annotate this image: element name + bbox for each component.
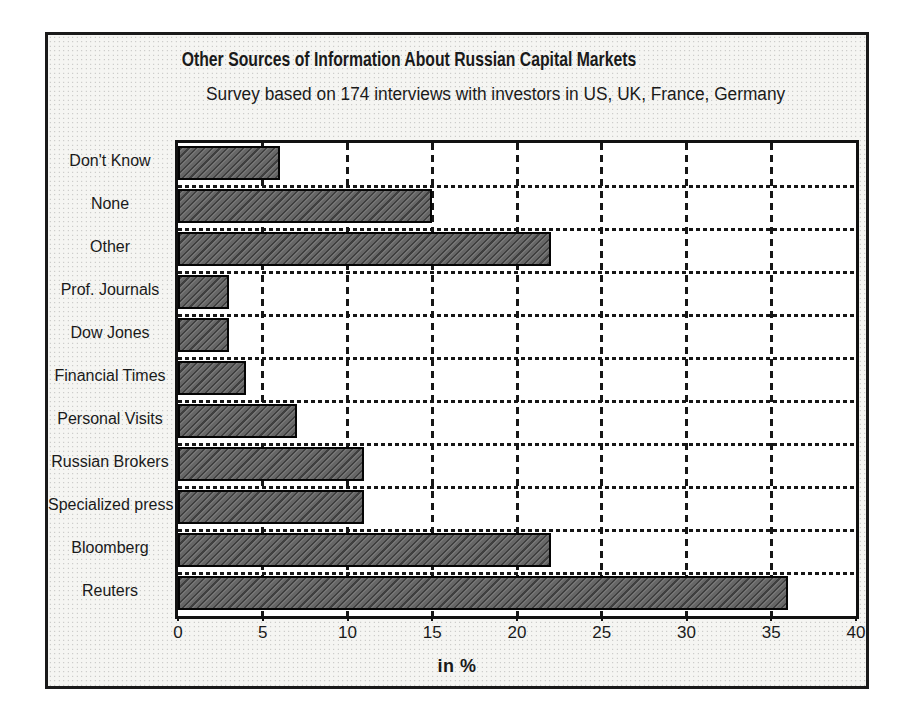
category-label: None bbox=[48, 195, 172, 213]
x-tick-label: 30 bbox=[665, 623, 709, 643]
plot-area bbox=[175, 140, 859, 619]
chart-title: Other Sources of Information About Russi… bbox=[0, 47, 821, 71]
category-axis: Don't KnowNoneOtherProf. JournalsDow Jon… bbox=[48, 140, 172, 613]
row-separator bbox=[178, 314, 856, 317]
x-tick-label: 0 bbox=[156, 623, 200, 643]
chart-subtitle: Survey based on 174 interviews with inve… bbox=[84, 84, 908, 105]
chart-figure: Other Sources of Information About Russi… bbox=[45, 32, 869, 689]
x-tick-label: 35 bbox=[749, 623, 793, 643]
bar bbox=[178, 404, 297, 438]
bar bbox=[178, 361, 246, 395]
category-label: Financial Times bbox=[48, 367, 172, 385]
bar bbox=[178, 232, 551, 266]
category-label: Prof. Journals bbox=[48, 281, 172, 299]
bar bbox=[178, 490, 364, 524]
x-tick-mark bbox=[516, 616, 518, 621]
x-tick-label: 5 bbox=[241, 623, 285, 643]
v-gridline bbox=[600, 143, 603, 616]
x-tick-mark bbox=[855, 616, 857, 621]
x-tick-label: 20 bbox=[495, 623, 539, 643]
bar bbox=[178, 447, 364, 481]
row-separator bbox=[178, 572, 856, 575]
category-label: Bloomberg bbox=[48, 539, 172, 557]
chart-title-text: Other Sources of Information About Russi… bbox=[182, 47, 636, 71]
category-label: Personal Visits bbox=[48, 410, 172, 428]
x-tick-mark bbox=[347, 616, 349, 621]
row-separator bbox=[178, 400, 856, 403]
v-gridline bbox=[770, 143, 773, 616]
category-label: Other bbox=[48, 238, 172, 256]
category-label: Russian Brokers bbox=[48, 453, 172, 471]
bar bbox=[178, 189, 432, 223]
x-tick-mark bbox=[262, 616, 264, 621]
scanned-page: { "chart_data": { "type": "bar", "orient… bbox=[0, 0, 912, 726]
x-tick-mark bbox=[770, 616, 772, 621]
row-separator bbox=[178, 486, 856, 489]
chart-subtitle-text: Survey based on 174 interviews with inve… bbox=[206, 84, 785, 105]
category-label: Dow Jones bbox=[48, 324, 172, 342]
bar bbox=[178, 146, 280, 180]
bar bbox=[178, 576, 788, 610]
x-tick-mark bbox=[601, 616, 603, 621]
x-tick-label: 25 bbox=[580, 623, 624, 643]
x-axis-label: in % bbox=[48, 656, 866, 677]
row-separator bbox=[178, 357, 856, 360]
bar bbox=[178, 275, 229, 309]
x-tick-mark bbox=[177, 616, 179, 621]
row-separator bbox=[178, 271, 856, 274]
x-tick-mark bbox=[686, 616, 688, 621]
category-label: Don't Know bbox=[48, 152, 172, 170]
v-gridline bbox=[685, 143, 688, 616]
row-separator bbox=[178, 185, 856, 188]
row-separator bbox=[178, 443, 856, 446]
x-tick-label: 10 bbox=[326, 623, 370, 643]
category-label: Specialized press bbox=[48, 496, 172, 514]
row-separator bbox=[178, 529, 856, 532]
bar bbox=[178, 318, 229, 352]
bar bbox=[178, 533, 551, 567]
x-tick-label: 40 bbox=[834, 623, 878, 643]
x-tick-label: 15 bbox=[410, 623, 454, 643]
x-tick-mark bbox=[431, 616, 433, 621]
category-label: Reuters bbox=[48, 582, 172, 600]
row-separator bbox=[178, 228, 856, 231]
